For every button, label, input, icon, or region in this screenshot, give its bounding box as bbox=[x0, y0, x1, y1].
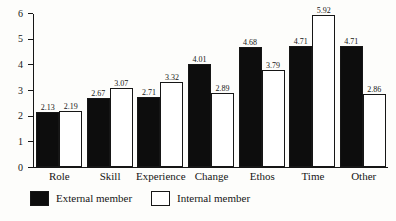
y-axis-tick-label: 5 bbox=[18, 34, 23, 44]
y-axis-tick: 5 bbox=[28, 39, 33, 40]
x-axis-category-label: Experience bbox=[135, 170, 186, 183]
bar-slot: 2.19 bbox=[59, 14, 82, 167]
bar-value-label: 2.89 bbox=[216, 85, 230, 93]
bar-value-label: 4.71 bbox=[294, 38, 308, 46]
bar-value-label: 3.79 bbox=[266, 62, 280, 70]
bar-value-label: 2.67 bbox=[91, 90, 105, 98]
bar: 2.19 bbox=[59, 111, 82, 167]
bar-slot: 2.71 bbox=[137, 14, 160, 167]
x-axis-category-label: Skill bbox=[85, 170, 136, 183]
bar-slot: 4.71 bbox=[340, 14, 363, 167]
bar: 2.89 bbox=[211, 93, 234, 167]
bar-value-label: 2.86 bbox=[367, 86, 381, 94]
bar-value-label: 2.19 bbox=[64, 103, 78, 111]
bar-value-label: 4.71 bbox=[344, 38, 358, 46]
legend-item: Internal member bbox=[151, 191, 250, 206]
legend-swatch bbox=[30, 191, 49, 206]
bar: 2.67 bbox=[87, 98, 110, 167]
y-axis-tick-label: 2 bbox=[18, 111, 23, 121]
x-axis-category-label: Time bbox=[288, 170, 339, 183]
bar-value-label: 3.07 bbox=[114, 80, 128, 88]
bar: 4.68 bbox=[239, 47, 262, 167]
x-axis-line bbox=[33, 167, 388, 168]
y-axis-tick-label: 6 bbox=[18, 9, 23, 19]
bar-group: 2.673.07 bbox=[85, 14, 136, 167]
y-axis-tick: 2 bbox=[28, 116, 33, 117]
bar-slot: 4.68 bbox=[239, 14, 262, 167]
bar-slot: 3.79 bbox=[262, 14, 285, 167]
y-axis-tick: 0 bbox=[28, 167, 33, 168]
bar-value-label: 2.71 bbox=[142, 89, 156, 97]
bar-value-label: 2.13 bbox=[41, 104, 55, 112]
y-axis-tick: 4 bbox=[28, 64, 33, 65]
bar: 4.71 bbox=[340, 46, 363, 167]
bar-slot: 4.71 bbox=[289, 14, 312, 167]
y-axis-tick-label: 3 bbox=[18, 86, 23, 96]
bar-slot: 2.89 bbox=[211, 14, 234, 167]
bar: 2.13 bbox=[36, 112, 59, 167]
bar-group: 2.132.19 bbox=[34, 14, 85, 167]
bar-group: 4.712.86 bbox=[337, 14, 388, 167]
bar-slot: 3.07 bbox=[110, 14, 133, 167]
y-axis-tick-label: 1 bbox=[18, 137, 23, 147]
legend-label: Internal member bbox=[177, 193, 250, 204]
bar-slot: 2.67 bbox=[87, 14, 110, 167]
bar-slot: 5.92 bbox=[312, 14, 335, 167]
bar: 4.01 bbox=[188, 64, 211, 167]
x-axis-category-label: Role bbox=[34, 170, 85, 183]
x-axis-category-labels: RoleSkillExperienceChangeEthosTimeOther bbox=[34, 170, 389, 183]
bar: 3.07 bbox=[110, 88, 133, 167]
x-axis-category-label: Other bbox=[338, 170, 389, 183]
bar-group: 2.713.32 bbox=[135, 14, 186, 167]
legend-label: External member bbox=[56, 193, 132, 204]
bar: 5.92 bbox=[312, 15, 335, 167]
legend-item: External member bbox=[30, 191, 132, 206]
y-axis-tick: 6 bbox=[28, 13, 33, 14]
legend-swatch bbox=[151, 191, 170, 206]
bar: 2.86 bbox=[363, 94, 386, 167]
bar-group: 4.012.89 bbox=[186, 14, 237, 167]
bar: 2.71 bbox=[137, 97, 160, 167]
bar: 4.71 bbox=[289, 46, 312, 167]
bar-slot: 3.32 bbox=[160, 14, 183, 167]
x-axis-category-label: Ethos bbox=[237, 170, 288, 183]
bar-value-label: 4.01 bbox=[193, 56, 207, 64]
bar-slot: 2.13 bbox=[36, 14, 59, 167]
bar: 3.32 bbox=[160, 82, 183, 167]
bar-groups: 2.132.192.673.072.713.324.012.894.683.79… bbox=[34, 14, 388, 167]
y-axis-tick: 1 bbox=[28, 141, 33, 142]
bar-value-label: 5.92 bbox=[317, 7, 331, 15]
bar-group: 4.683.79 bbox=[236, 14, 287, 167]
bar-slot: 2.86 bbox=[363, 14, 386, 167]
bar-slot: 4.01 bbox=[188, 14, 211, 167]
bar-value-label: 4.68 bbox=[243, 39, 257, 47]
y-axis-tick-label: 4 bbox=[18, 60, 23, 70]
bar-chart-figure: 0123456 2.132.192.673.072.713.324.012.89… bbox=[0, 0, 396, 221]
chart-legend: External memberInternal member bbox=[30, 191, 269, 206]
x-axis-category-label: Change bbox=[186, 170, 237, 183]
plot-area: 0123456 2.132.192.673.072.713.324.012.89… bbox=[33, 14, 388, 168]
bar-value-label: 3.32 bbox=[165, 74, 179, 82]
bar-group: 4.715.92 bbox=[287, 14, 338, 167]
y-axis-tick-label: 0 bbox=[18, 163, 23, 173]
y-axis-tick: 3 bbox=[28, 90, 33, 91]
bar: 3.79 bbox=[262, 70, 285, 167]
